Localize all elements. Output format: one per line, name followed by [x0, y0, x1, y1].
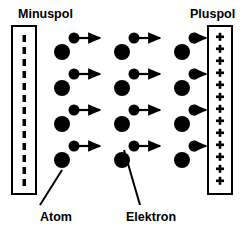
minus-charge-symbol: [23, 71, 27, 78]
diagram-canvas: Minuspol Pluspol: [0, 0, 243, 233]
minus-charge-symbol: [23, 119, 27, 126]
plus-pole-electrode: [208, 26, 232, 194]
atom-circle: [54, 152, 70, 168]
minus-pole-electrode: [12, 26, 36, 194]
minus-charge-symbol: [23, 59, 27, 66]
electron-callout-label: Elektron: [126, 210, 176, 224]
minus-charge-symbol: [23, 143, 27, 150]
atom-circle: [54, 116, 70, 132]
atom-circle: [174, 44, 190, 60]
atom-circle: [114, 80, 130, 96]
atom-circle: [54, 44, 70, 60]
atom-circle: [114, 116, 130, 132]
minus-charge-symbol: [23, 95, 27, 102]
atom-circle: [114, 44, 130, 60]
electric-current-diagram: Minuspol Pluspol: [0, 0, 243, 233]
atom-circle: [174, 80, 190, 96]
minus-charge-symbol: [23, 167, 27, 174]
minus-charge-symbol: [23, 47, 27, 54]
atom-circle: [174, 116, 190, 132]
atom-callout-label: Atom: [40, 210, 72, 224]
minus-charge-symbol: [23, 83, 27, 90]
minus-pole-label: Minuspol: [18, 7, 73, 21]
minus-charge-symbol: [23, 155, 27, 162]
minus-charge-symbol: [23, 131, 27, 138]
atom-circle: [174, 152, 190, 168]
atom-circle: [54, 80, 70, 96]
minus-charge-symbol: [23, 179, 27, 186]
minus-charge-symbol: [23, 35, 27, 42]
plus-pole-label: Pluspol: [190, 7, 235, 21]
minus-charge-symbol: [23, 107, 27, 114]
